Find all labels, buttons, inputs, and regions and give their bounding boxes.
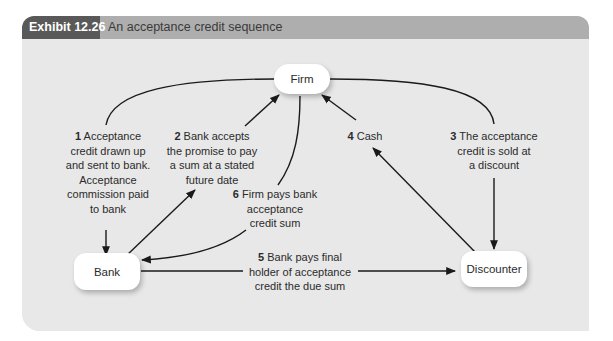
node-bank: Bank [74,253,140,290]
arrow-step-2-top [245,95,279,126]
step-4-label: 4 Cash [340,129,390,144]
node-discounter: Discounter [461,251,527,287]
node-firm: Firm [274,64,330,94]
arrow-step-3-top [330,79,494,124]
arrow-step-1-top [106,79,275,125]
arrow-step-6-bottom [142,230,246,260]
step-5-label: 5 Bank pays final holder of acceptance c… [240,250,360,294]
step-6-label: 6 Firm pays bank acceptance credit sum [225,187,325,231]
step-1-label: 1 Acceptance credit drawn up and sent to… [62,129,154,216]
arrow-step-6-top [278,96,300,185]
step-3-label: 3 The acceptance credit is sold at a dis… [440,129,548,173]
arrow-step-4-top [322,95,356,120]
step-2-label: 2 Bank accepts the promise to pay a sum … [160,129,264,187]
